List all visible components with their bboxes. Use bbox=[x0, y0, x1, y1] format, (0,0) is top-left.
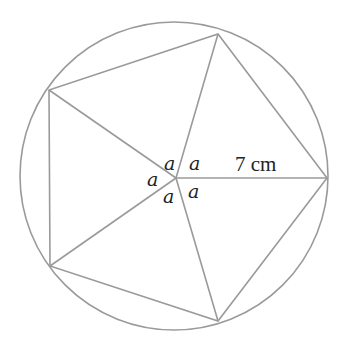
pentagon-circle-diagram: a a a a a 7 cm bbox=[0, 0, 340, 347]
angle-label: a bbox=[164, 152, 175, 174]
angle-label: a bbox=[188, 180, 199, 202]
radius-line bbox=[49, 90, 176, 178]
radius-line bbox=[50, 178, 176, 266]
angle-label: a bbox=[189, 152, 200, 174]
radii bbox=[49, 34, 327, 321]
angle-label: a bbox=[147, 168, 158, 190]
radius-length-label: 7 cm bbox=[235, 152, 276, 176]
angle-label: a bbox=[163, 185, 174, 207]
